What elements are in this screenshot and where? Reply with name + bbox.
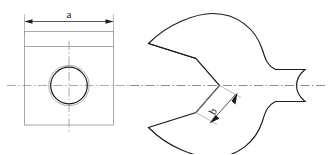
technical-drawing-canvas: a bbox=[0, 0, 334, 154]
technical-drawing-svg: a bbox=[0, 0, 334, 154]
wrench-upper-jaw-face bbox=[149, 44, 197, 59]
dimension-arrow-a-right bbox=[106, 19, 114, 24]
wrench-body-outline bbox=[149, 14, 306, 155]
extension-line-b-top bbox=[220, 86, 242, 98]
side-view-wrench-head: b bbox=[130, 14, 327, 155]
dimension-label-a: a bbox=[67, 8, 72, 20]
dimension-arrow-a-left bbox=[25, 19, 33, 24]
dimension-label-b: b bbox=[206, 105, 219, 116]
front-view-square-plate: a bbox=[7, 8, 131, 133]
